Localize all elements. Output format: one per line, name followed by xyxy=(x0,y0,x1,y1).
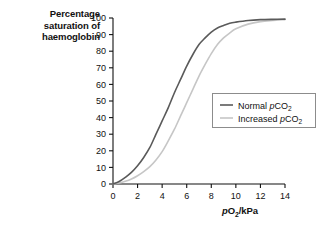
y-tick-label: 20 xyxy=(96,146,106,156)
x-tick-label: 2 xyxy=(135,191,140,201)
legend-label-normal: Normal pCO2 xyxy=(238,101,292,112)
y-tick-label: 80 xyxy=(96,46,106,56)
x-tick-label: 14 xyxy=(280,191,290,201)
y-axis-title: Percentage saturation of haemoglobin xyxy=(6,8,100,43)
x-tick-label: 4 xyxy=(160,191,165,201)
y-tick-label: 60 xyxy=(96,80,106,90)
x-tick-label: 0 xyxy=(110,191,115,201)
y-tick-label: 40 xyxy=(96,113,106,123)
y-axis-title-text: Percentage saturation of haemoglobin xyxy=(42,8,100,42)
legend: Normal pCO2 Increased pCO2 xyxy=(213,94,316,128)
y-tick-label: 30 xyxy=(96,129,106,139)
y-tick-label: 70 xyxy=(96,63,106,73)
x-axis-ticks: 02468101214 xyxy=(110,184,290,201)
oxygen-dissociation-chart: Percentage saturation of haemoglobin pO2… xyxy=(0,0,335,228)
legend-label-increased: Increased pCO2 xyxy=(238,114,303,125)
y-tick-label: 10 xyxy=(96,163,106,173)
y-tick-label: 50 xyxy=(96,96,106,106)
x-tick-label: 12 xyxy=(255,191,265,201)
x-tick-label: 6 xyxy=(184,191,189,201)
x-axis-title-post: /kPa xyxy=(239,205,258,216)
x-tick-label: 10 xyxy=(231,191,241,201)
x-tick-label: 8 xyxy=(209,191,214,201)
y-tick-label: 0 xyxy=(101,179,106,189)
x-axis-title: pO2/kPa xyxy=(190,205,290,220)
x-axis-title-main: O xyxy=(228,205,235,216)
